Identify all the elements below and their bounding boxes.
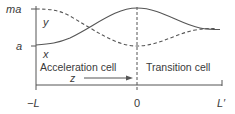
curve-x-solid <box>36 8 220 45</box>
x-tick-label-zero: 0 <box>134 97 140 109</box>
arrow-label-z: z <box>69 72 76 84</box>
curve-label-x: x <box>42 48 49 60</box>
region-label-acceleration: Acceleration cell <box>40 61 116 73</box>
arrow-right-icon <box>126 76 133 81</box>
x-tick-label-minus-l: −L <box>27 97 40 109</box>
region-label-transition: Transition cell <box>146 61 210 73</box>
curve-label-y: y <box>42 16 50 28</box>
y-tick-label-ma: ma <box>6 3 21 15</box>
y-tick-label-a: a <box>16 40 22 52</box>
diagram-canvas: ma a y x Acceleration cell Transition ce… <box>0 0 235 114</box>
x-tick-label-lprime: L′ <box>217 97 226 109</box>
